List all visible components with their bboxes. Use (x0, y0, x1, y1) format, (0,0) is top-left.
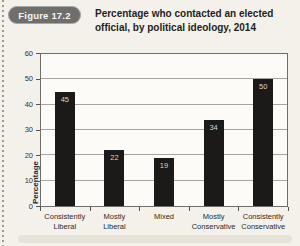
bar-value-label: 19 (154, 161, 174, 170)
y-tick-mark (36, 155, 40, 156)
y-tick-label-50: 50 (13, 74, 33, 83)
gridline-20 (41, 154, 287, 155)
y-tick-label-0: 0 (13, 202, 33, 211)
x-tick-mark (40, 207, 41, 211)
figure-number-label: Figure 17.2 (18, 10, 70, 21)
bar-consistently-conservative: 50 (253, 79, 273, 206)
bar-value-label: 34 (204, 123, 224, 132)
gridline-40 (41, 104, 287, 105)
y-tick-label-60: 60 (13, 49, 33, 58)
bar-mixed: 19 (154, 158, 174, 206)
figure-title: Percentage who contacted an elected offi… (95, 7, 291, 34)
x-category-label-consistently-conservative: Consistently Conservative (233, 212, 293, 231)
y-tick-mark (36, 79, 40, 80)
x-tick-mark (288, 207, 289, 211)
gridline-50 (41, 78, 287, 79)
bar-value-label: 45 (55, 95, 75, 104)
y-tick-mark (36, 130, 40, 131)
y-tick-label-30: 30 (13, 125, 33, 134)
bar-value-label: 22 (104, 153, 124, 162)
textbook-figure-page: Figure 17.2 Percentage who contacted an … (0, 0, 300, 246)
bar-mostly-liberal: 22 (104, 150, 124, 206)
y-tick-label-20: 20 (13, 151, 33, 160)
x-tick-mark (189, 207, 190, 211)
y-tick-label-10: 10 (13, 176, 33, 185)
bar-value-label: 50 (253, 82, 273, 91)
gridline-30 (41, 129, 287, 130)
y-tick-mark (36, 181, 40, 182)
bar-chart-plot-area: Percentage 4522193450 (40, 53, 288, 207)
scan-smudge (18, 235, 292, 243)
figure-number-badge: Figure 17.2 (8, 6, 81, 24)
x-tick-mark (238, 207, 239, 211)
y-tick-label-40: 40 (13, 100, 33, 109)
bar-consistently-liberal: 45 (55, 92, 75, 206)
x-tick-mark (90, 207, 91, 211)
y-tick-mark (36, 53, 40, 54)
y-tick-mark (36, 104, 40, 105)
bar-mostly-conservative: 34 (204, 120, 224, 206)
page-perforation-edge (2, 0, 4, 246)
x-tick-mark (139, 207, 140, 211)
